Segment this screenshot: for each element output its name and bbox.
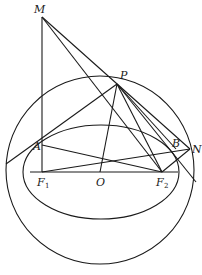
diagram-canvas: M P A B N F 1 O F 2 [0, 0, 202, 275]
label-F2: F [155, 176, 164, 189]
tangent-line-P-N [117, 84, 196, 182]
label-F1: F [36, 176, 45, 189]
label-F2-subscript: 2 [164, 182, 168, 190]
label-F1-subscript: 1 [45, 182, 49, 190]
label-O: O [96, 176, 105, 189]
label-A: A [32, 140, 41, 153]
geometry-diagram: M P A B N F 1 O F 2 [0, 0, 202, 275]
label-N: N [191, 143, 202, 156]
tangent-line-A-P [6, 84, 117, 164]
line-P-B [117, 84, 176, 149]
label-B: B [171, 137, 180, 150]
line-F1-N [42, 149, 190, 172]
label-P: P [119, 69, 128, 82]
label-M: M [33, 3, 46, 16]
